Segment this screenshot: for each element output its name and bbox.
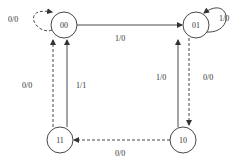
label-01-10: 0/0 (203, 73, 213, 82)
state-11: 11 (47, 127, 73, 153)
label-01-01: 1/0 (219, 14, 229, 23)
label-10-01: 1/0 (156, 73, 166, 82)
state-11-label: 11 (56, 136, 64, 145)
label-00-00: 0/0 (8, 15, 18, 24)
state-diagram: 00 01 11 10 0/0 1/0 1/0 0/0 1/0 0/0 0/0 … (0, 0, 236, 165)
label-10-11: 0/0 (115, 149, 125, 158)
state-10: 10 (170, 127, 196, 153)
state-10-label: 10 (179, 136, 187, 145)
label-00-01: 1/0 (115, 34, 125, 43)
label-11-00-solid: 1/1 (76, 81, 86, 90)
state-01-label: 01 (192, 21, 200, 30)
label-11-00-dashed: 0/0 (22, 81, 32, 90)
state-01: 01 (183, 12, 209, 38)
state-00: 00 (51, 12, 77, 38)
state-00-label: 00 (60, 21, 68, 30)
edge-00-00 (34, 11, 52, 31)
